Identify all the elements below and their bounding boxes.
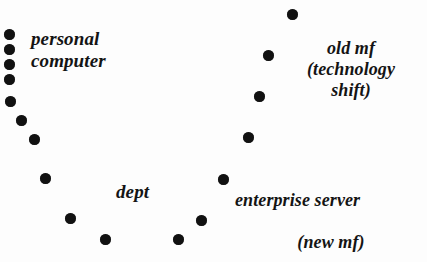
curve-dot bbox=[100, 234, 111, 245]
label-dept: dept bbox=[116, 181, 149, 203]
curve-dot bbox=[173, 234, 184, 245]
curve-dot bbox=[4, 59, 15, 70]
label-enterprise-server-line2: (new mf) bbox=[235, 232, 427, 253]
curve-dot bbox=[263, 50, 274, 61]
label-enterprise-server: enterprise server (new mf) bbox=[235, 169, 427, 262]
curve-dot bbox=[5, 96, 16, 107]
curve-dot bbox=[243, 132, 254, 143]
curve-dot bbox=[16, 115, 27, 126]
curve-dot bbox=[40, 173, 51, 184]
curve-dot bbox=[254, 91, 265, 102]
diagram-canvas: personal computer old mf (technology shi… bbox=[0, 0, 427, 262]
curve-dot bbox=[65, 213, 76, 224]
curve-dot bbox=[196, 215, 207, 226]
label-enterprise-server-line1: enterprise server bbox=[235, 190, 427, 211]
curve-dot bbox=[287, 9, 298, 20]
curve-dot bbox=[4, 29, 15, 40]
curve-dot bbox=[4, 44, 15, 55]
curve-dot bbox=[4, 74, 15, 85]
curve-dot bbox=[29, 134, 40, 145]
label-old-mf: old mf (technology shift) bbox=[281, 38, 421, 101]
curve-dot bbox=[218, 174, 229, 185]
label-personal-computer: personal computer bbox=[31, 28, 106, 72]
